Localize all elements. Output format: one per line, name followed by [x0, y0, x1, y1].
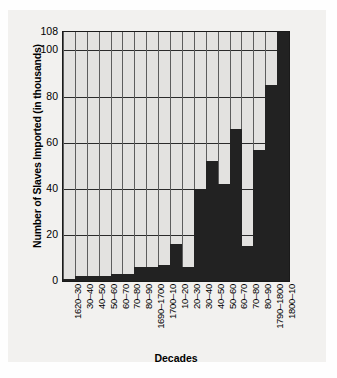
gridline-vertical	[87, 32, 88, 281]
y-axis-tick: 80	[22, 90, 58, 102]
x-axis-tick: 30–40	[203, 284, 214, 309]
x-axis-tick: 50–60	[227, 284, 238, 309]
gridline-vertical	[146, 32, 147, 281]
bar	[75, 276, 87, 281]
bar	[218, 184, 230, 281]
gridline-horizontal	[63, 50, 289, 51]
bar	[277, 32, 289, 281]
x-axis-tick: 70–80	[250, 284, 261, 309]
gridline-vertical	[158, 32, 159, 281]
bar	[265, 85, 277, 281]
x-axis-tick: 60–70	[238, 284, 249, 309]
x-axis-tick: 30–40	[84, 284, 95, 309]
x-axis-tick: 70–80	[131, 284, 142, 309]
bar	[194, 189, 206, 281]
y-axis-tick: 108	[22, 25, 58, 37]
gridline-horizontal	[63, 97, 289, 98]
x-axis-tick: 60–70	[120, 284, 131, 309]
plot-area	[62, 31, 290, 282]
bar	[63, 279, 75, 281]
bar	[122, 274, 134, 281]
y-axis-tick: 0	[22, 274, 58, 286]
gridline-vertical	[134, 32, 135, 281]
gridline-vertical	[75, 32, 76, 281]
x-axis-tick: 50–60	[108, 284, 119, 309]
x-axis-tick: 80–90	[143, 284, 154, 309]
bar	[146, 267, 158, 281]
x-axis-tick: 20–30	[191, 284, 202, 309]
x-axis-tick: 40–50	[96, 284, 107, 309]
gridline-horizontal	[63, 143, 289, 144]
y-axis-tick-labels: 020406080100108	[22, 0, 58, 378]
gridline-vertical	[111, 32, 112, 281]
x-axis-tick: 80–90	[262, 284, 273, 309]
x-axis-tick: 1620–30	[72, 284, 83, 319]
x-axis-tick: 1690–1700	[155, 284, 166, 329]
x-axis-tick: 1700–10	[167, 284, 178, 319]
bar	[87, 276, 99, 281]
x-axis-title: Decades	[62, 352, 290, 364]
y-axis-tick: 100	[22, 43, 58, 55]
x-axis-tick-labels: 1620–3030–4040–5050–6060–7070–8080–90169…	[62, 284, 290, 354]
bar	[206, 161, 218, 281]
gridline-vertical	[289, 32, 290, 281]
x-axis-tick: 1800–10	[286, 284, 297, 319]
y-axis-tick: 20	[22, 228, 58, 240]
gridline-vertical	[182, 32, 183, 281]
bar	[241, 246, 253, 281]
y-axis-tick: 40	[22, 182, 58, 194]
bar	[182, 267, 194, 281]
gridline-vertical	[122, 32, 123, 281]
x-axis-tick: 1790–1800	[274, 284, 285, 329]
chart-figure: Number of Slaves Imported (in thousands)…	[0, 0, 337, 378]
bar	[158, 265, 170, 281]
x-axis-tick: 40–50	[215, 284, 226, 309]
bar	[134, 267, 146, 281]
bar	[253, 150, 265, 281]
gridline-vertical	[99, 32, 100, 281]
bar	[170, 244, 182, 281]
y-axis-tick: 60	[22, 136, 58, 148]
x-axis-tick: 10–20	[179, 284, 190, 309]
gridline-vertical	[63, 32, 64, 281]
bar	[99, 276, 111, 281]
